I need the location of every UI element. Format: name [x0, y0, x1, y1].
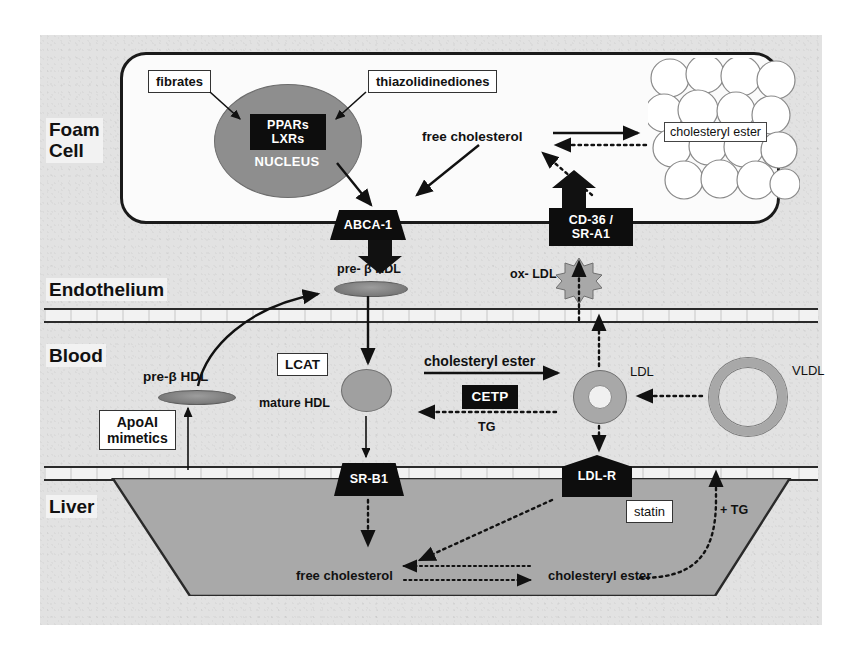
- receptor-sr-b1[interactable]: SR-B1: [334, 463, 404, 496]
- mature-hdl-particle: [341, 369, 392, 412]
- pre-beta-hdl-apical-label: pre- β HDL: [337, 262, 401, 276]
- tg-flux-label: TG: [478, 420, 495, 434]
- ox-ldl-particle: [556, 258, 602, 304]
- ldl-core: [588, 385, 612, 409]
- section-caption-liver: Liver: [46, 495, 97, 518]
- foam-cell-cholesteryl-ester-label: cholesteryl ester: [664, 122, 767, 142]
- drug-box-apoai-mimetics[interactable]: ApoAI mimetics: [99, 410, 176, 450]
- enzyme-cetp-label: CETP: [472, 389, 509, 405]
- section-caption-endothelium: Endothelium: [46, 278, 167, 301]
- receptor-cd36-label: CD-36 /: [569, 213, 613, 227]
- cholesteryl-ester-flux-label: cholesteryl ester: [424, 353, 535, 369]
- figure-canvas: PPARs LXRs NUCLEUS fibrates thiazolidine…: [0, 0, 862, 664]
- drug-box-thiazolidinediones[interactable]: thiazolidinediones: [368, 70, 497, 93]
- pre-beta-hdl-particle: [158, 390, 236, 405]
- ldl-label: LDL: [630, 364, 654, 379]
- receptor-ldl-r-label: LDL-R: [578, 469, 617, 483]
- liver-cholesteryl-ester-label: cholesteryl ester: [548, 568, 651, 583]
- plus-tg-label: + TG: [720, 503, 748, 517]
- pre-beta-hdl-label: pre-β HDL: [143, 369, 208, 384]
- liver-free-cholesterol-label: free cholesterol: [296, 568, 393, 583]
- section-caption-foam-cell: Foam Cell: [46, 118, 103, 163]
- nuclear-receptors-box: PPARs LXRs: [250, 114, 326, 150]
- receptor-abca1[interactable]: ABCA-1: [330, 210, 406, 240]
- receptor-cd36-sra1[interactable]: CD-36 / SR-A1: [549, 208, 633, 246]
- receptor-sr-b1-label: SR-B1: [350, 472, 389, 486]
- drug-box-fibrates[interactable]: fibrates: [148, 70, 211, 93]
- vldl-label: VLDL: [792, 363, 825, 378]
- vldl-particle: [709, 358, 787, 436]
- drug-box-statin[interactable]: statin: [626, 500, 673, 523]
- endothelium-membrane: [44, 308, 818, 323]
- enzyme-box-cetp[interactable]: CETP: [462, 385, 518, 409]
- foam-cell-free-cholesterol-label: free cholesterol: [422, 129, 523, 144]
- ox-ldl-label: ox- LDL: [510, 267, 557, 281]
- nucleus-label: NUCLEUS: [214, 154, 360, 169]
- mature-hdl-label: mature HDL: [259, 396, 330, 410]
- enzyme-box-lcat[interactable]: LCAT: [277, 353, 328, 376]
- section-caption-blood: Blood: [46, 344, 106, 367]
- receptor-abca1-label: ABCA-1: [344, 218, 392, 232]
- gene-lxrs: LXRs: [272, 132, 305, 146]
- receptor-sra1-label: SR-A1: [572, 227, 611, 241]
- liver-outline: [60, 478, 800, 596]
- gene-ppars: PPARs: [267, 118, 309, 132]
- pre-beta-hdl-apical-particle: [334, 281, 408, 297]
